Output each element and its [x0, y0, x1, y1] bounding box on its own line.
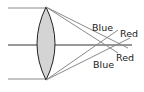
diagram-canvas: Blue Red Blue Red: [0, 0, 144, 92]
chromatic-aberration-diagram: Blue Red Blue Red: [0, 0, 144, 92]
label-red-top: Red: [120, 28, 138, 39]
label-red-bottom: Red: [116, 52, 134, 63]
label-blue-top: Blue: [92, 22, 113, 33]
red-ray-top: [46, 7, 128, 48]
blue-ray-bottom: [46, 30, 118, 80]
label-blue-bottom: Blue: [93, 59, 114, 70]
convex-lens: [37, 7, 55, 80]
